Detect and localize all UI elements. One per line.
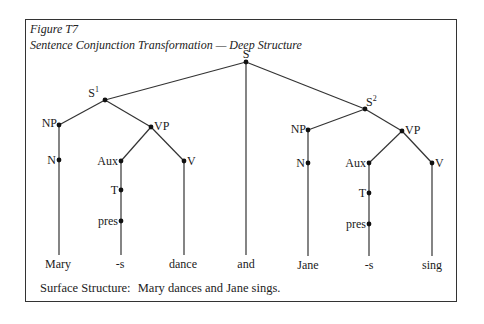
surface-structure: Surface Structure: Mary dances and Jane … — [40, 281, 280, 296]
surface-label: Surface Structure: — [40, 281, 131, 295]
leaf-s-1: -s — [116, 257, 125, 271]
node-right-v: V — [435, 156, 444, 170]
node-right-np: NP — [291, 122, 307, 136]
node-s1: S1 — [88, 85, 99, 100]
leaf-sing: sing — [422, 258, 442, 272]
leaf-and: and — [237, 257, 254, 271]
node-left-v: V — [187, 154, 196, 168]
leaf-dance: dance — [169, 257, 197, 271]
leaf-mary: Mary — [45, 257, 71, 271]
node-s2: S2 — [366, 94, 377, 109]
node-left-aux: Aux — [97, 154, 118, 168]
node-right-vp: VP — [405, 123, 421, 137]
leaf-s-2: -s — [365, 258, 374, 272]
node-left-np: NP — [42, 116, 58, 130]
surface-sentence: Mary dances and Jane sings. — [138, 281, 281, 295]
node-right-pres: pres — [346, 217, 366, 231]
syntax-tree: S S1 NP VP N Aux V T pres S2 NP VP N Aux… — [0, 0, 484, 324]
node-s: S — [243, 47, 250, 61]
node-left-pres: pres — [98, 214, 118, 228]
node-left-n: N — [47, 153, 56, 167]
node-left-vp: VP — [154, 119, 170, 133]
node-right-t: T — [359, 186, 367, 200]
node-right-aux: Aux — [345, 156, 366, 170]
node-right-n: N — [296, 156, 305, 170]
leaf-jane: Jane — [297, 258, 318, 272]
node-left-t: T — [111, 183, 119, 197]
